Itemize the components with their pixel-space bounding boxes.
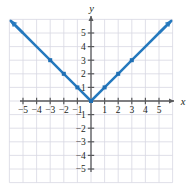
y-tick-label: 5: [81, 28, 86, 38]
data-point-marker: [103, 85, 107, 89]
y-tick-label: −2: [76, 124, 86, 134]
x-tick-label: 3: [129, 105, 134, 115]
data-point-marker: [62, 72, 66, 76]
y-tick-label: −5: [76, 164, 86, 174]
x-tick-label: −3: [45, 105, 55, 115]
x-tick-label: −5: [18, 105, 28, 115]
x-axis-name-label: x: [180, 96, 186, 107]
absolute-value-graph-figure: −5−4−3−2−11234554321−1−2−3−4−5 xy: [0, 0, 193, 189]
y-axis-name-label: y: [88, 3, 94, 14]
y-tick-label: −1: [76, 110, 86, 120]
x-tick-label: 5: [157, 105, 162, 115]
x-tick-label: −4: [32, 105, 42, 115]
curve-arrow-right: [159, 21, 171, 33]
x-tick-label: 4: [143, 105, 148, 115]
y-tick-label: 3: [81, 56, 86, 66]
y-tick-label: 4: [81, 42, 86, 52]
x-tick-label: 2: [116, 105, 121, 115]
y-tick-label: 2: [81, 69, 86, 79]
y-tick-label: −4: [76, 151, 86, 161]
x-tick-label: −2: [59, 105, 69, 115]
x-tick-label: 1: [102, 105, 107, 115]
curve-arrow-left: [11, 21, 23, 33]
coordinate-plane-svg: −5−4−3−2−11234554321−1−2−3−4−5 xy: [0, 0, 193, 189]
y-tick-label: 1: [81, 83, 86, 93]
data-point-marker: [130, 58, 134, 62]
data-point-marker: [48, 58, 52, 62]
data-point-marker: [75, 85, 79, 89]
data-point-marker: [116, 72, 120, 76]
y-tick-label: −3: [76, 137, 86, 147]
data-point-marker: [89, 99, 93, 103]
